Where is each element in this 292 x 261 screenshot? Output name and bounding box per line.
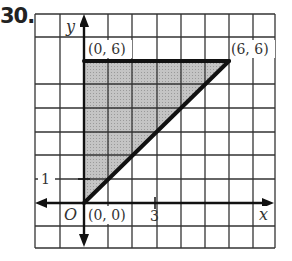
x-axis-arrow-left-icon — [35, 198, 47, 208]
vertex-label-6-6: (6, 6) — [231, 41, 269, 57]
origin-label: O — [64, 205, 77, 224]
y-axis-arrow-up-icon — [79, 14, 89, 27]
y-axis-label: y — [65, 17, 76, 36]
x-tick-label: 3 — [150, 208, 159, 224]
x-axis-label: x — [259, 205, 268, 224]
coordinate-graph: (0, 6) (6, 6) (0, 0) O y x 3 1 — [0, 0, 292, 261]
y-axis-arrow-down-icon — [79, 234, 89, 247]
vertex-label-0-6: (0, 6) — [88, 41, 126, 57]
y-tick-label: 1 — [41, 171, 50, 187]
vertex-label-0-0: (0, 0) — [88, 207, 126, 223]
